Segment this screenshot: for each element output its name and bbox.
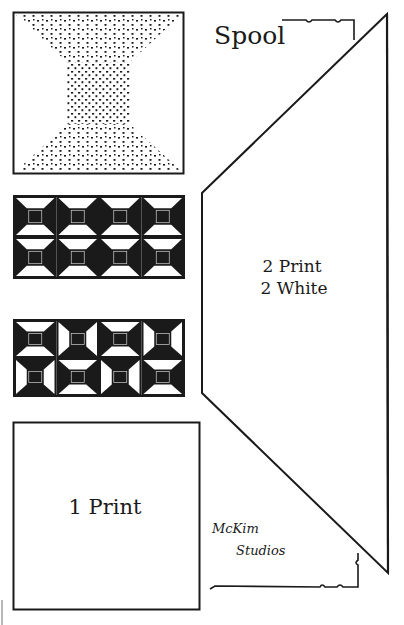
quilt-layout-horizontal (14, 196, 184, 278)
signature: McKim Studios (211, 521, 286, 558)
spool-block (14, 358, 57, 396)
spool-core (67, 62, 130, 124)
title-bracket (282, 20, 354, 40)
spool-bottom-flange (15, 124, 182, 172)
spool-block (142, 196, 185, 237)
trapezoid-template: 2 Print 2 White (202, 14, 388, 573)
center-square-cut-label: 1 Print (69, 495, 142, 519)
trapezoid-cut-label-white: 2 White (261, 278, 328, 298)
spool-block (14, 196, 57, 237)
title-group: Spool (214, 20, 354, 50)
spool-block (142, 320, 185, 358)
spool-block (57, 358, 100, 396)
spool-block (142, 358, 185, 396)
bottom-bracket (210, 553, 358, 589)
spool-block (142, 237, 185, 278)
signature-line-1: McKim (211, 521, 259, 536)
spool-block (99, 358, 142, 396)
quilt-layout-alternating (14, 320, 184, 396)
trapezoid-right-edge (387, 14, 388, 573)
spool-top-flange (15, 14, 182, 62)
spool-block (99, 196, 142, 237)
spool-block (14, 320, 57, 358)
spool-block-illustration (14, 13, 184, 174)
spool-block (99, 320, 142, 358)
spool-block (99, 237, 142, 278)
page-title: Spool (214, 21, 285, 50)
spool-block (14, 237, 57, 278)
spool-block (57, 237, 100, 278)
spool-block (57, 196, 100, 237)
center-square-template: 1 Print (14, 423, 200, 610)
pattern-sheet: 1 Print 2 Print 2 White Spool McKim Stud… (0, 0, 404, 625)
trapezoid-cut-label-print: 2 Print (262, 256, 321, 276)
signature-line-2: Studios (236, 543, 286, 558)
spool-block (57, 320, 100, 358)
